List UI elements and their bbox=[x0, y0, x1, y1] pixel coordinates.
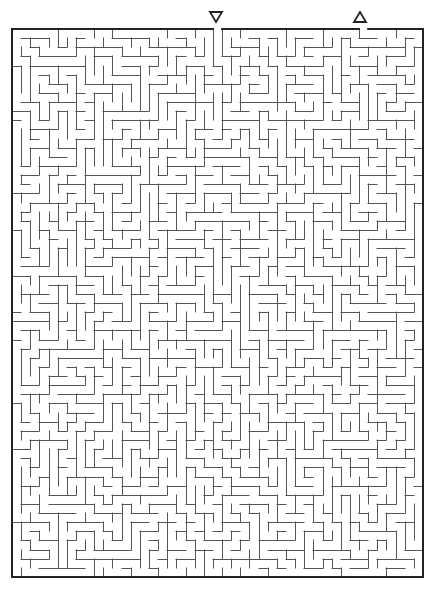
triangle-up-icon bbox=[353, 11, 367, 23]
maze-grid bbox=[0, 0, 437, 591]
triangle-down-icon bbox=[209, 11, 223, 23]
